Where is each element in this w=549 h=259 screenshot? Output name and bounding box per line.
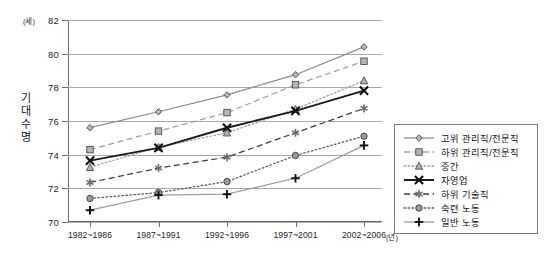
- legend-marker-asterisk-icon: [402, 187, 436, 201]
- y-tick-70: [62, 222, 68, 223]
- legend-marker-square-icon: [402, 145, 436, 159]
- y-tick-label-80: 80: [48, 48, 59, 59]
- legend-item-2[interactable]: 중간: [402, 159, 537, 173]
- legend-item-3[interactable]: 자영업: [402, 173, 537, 187]
- series-6: [86, 141, 369, 214]
- legend-label-6: 일반 노동: [441, 215, 480, 229]
- x-tick-2: [227, 222, 228, 227]
- x-tick-3: [296, 222, 297, 227]
- legend-label-0: 고위 관리직/전문직: [441, 131, 519, 145]
- legend-item-4[interactable]: 하위 기술직: [402, 187, 537, 201]
- y-tick-label-74: 74: [48, 149, 59, 160]
- legend-item-0[interactable]: 고위 관리직/전문직: [402, 131, 537, 145]
- legend-item-1[interactable]: 하위 관리직/전문직: [402, 145, 537, 159]
- series-0: [87, 44, 367, 131]
- gridline-70: [68, 222, 382, 223]
- legend-label-5: 숙련 노동: [441, 201, 480, 215]
- y-tick-label-70: 70: [48, 217, 59, 228]
- y-axis-title: 기대수명: [18, 92, 34, 144]
- x-tick-4: [364, 222, 365, 227]
- chart-screenshot: 기대수명 (세) 70727476788082 1982~19861987~19…: [0, 0, 549, 259]
- y-tick-label-72: 72: [48, 183, 59, 194]
- legend-marker-triangle-icon: [402, 159, 436, 173]
- legend-item-6[interactable]: 일반 노동: [402, 215, 537, 229]
- y-tick-label-76: 76: [48, 116, 59, 127]
- x-tick-label-3: 1997~2001: [273, 230, 317, 240]
- legend-label-3: 자영업: [441, 173, 468, 187]
- legend-label-2: 중간: [441, 159, 459, 173]
- legend-item-5[interactable]: 숙련 노동: [402, 201, 537, 215]
- x-tick-label-1: 1987~1991: [136, 230, 180, 240]
- x-tick-0: [90, 222, 91, 227]
- x-tick-1: [159, 222, 160, 227]
- chart-plot-area: (세) 70727476788082 1982~19861987~1991199…: [68, 20, 382, 222]
- legend-marker-plus-icon: [402, 215, 436, 229]
- series-data-layer: [68, 20, 382, 222]
- legend-label-1: 하위 관리직/전문직: [441, 145, 519, 159]
- legend-marker-diamond-icon: [402, 131, 436, 145]
- series-1: [87, 58, 367, 153]
- x-tick-label-2: 1992~1996: [205, 230, 249, 240]
- chart-legend: 고위 관리직/전문직하위 관리직/전문직중간자영업하위 기술직숙련 노동일반 노…: [394, 124, 538, 234]
- legend-label-4: 하위 기술직: [441, 187, 489, 201]
- series-4: [87, 104, 368, 186]
- y-axis-unit-label: (세): [23, 15, 35, 26]
- legend-marker-circle-icon: [402, 201, 436, 215]
- legend-marker-x-cross-icon: [402, 173, 436, 187]
- y-tick-label-78: 78: [48, 82, 59, 93]
- x-tick-label-0: 1982~1986: [68, 230, 112, 240]
- x-tick-label-4: 2002~2006: [342, 230, 386, 240]
- y-tick-label-82: 82: [48, 15, 59, 26]
